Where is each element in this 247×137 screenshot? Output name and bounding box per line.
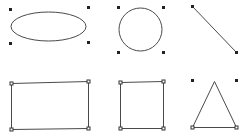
line-handle-end[interactable] [235, 51, 238, 54]
triangle-shape[interactable] [191, 79, 238, 129]
line-shape[interactable] [191, 5, 238, 54]
circle-handle-bottom-right[interactable] [162, 51, 165, 54]
square-handle-bottom-left[interactable] [119, 127, 122, 130]
rectangle-shape[interactable] [10, 80, 90, 131]
line-handle-start[interactable] [191, 5, 194, 8]
rectangle-handle-top-right[interactable] [87, 80, 90, 83]
circle-shape[interactable] [117, 6, 165, 54]
triangle-handle-bottom-left[interactable] [191, 126, 194, 129]
triangle-handle-top-right[interactable] [235, 79, 238, 82]
ellipse-outline[interactable] [11, 12, 86, 41]
circle-outline[interactable] [119, 8, 162, 51]
square-outline[interactable] [121, 82, 164, 129]
circle-handle-bottom-left[interactable] [117, 51, 120, 54]
drawing-canvas[interactable] [0, 0, 247, 137]
square-handle-top-left[interactable] [119, 81, 122, 84]
ellipse-handle-top-right[interactable] [87, 6, 90, 9]
line-segment[interactable] [193, 7, 237, 53]
triangle-handle-top-left[interactable] [191, 79, 194, 82]
circle-handle-top-right[interactable] [162, 6, 165, 9]
square-handle-top-right[interactable] [162, 80, 165, 83]
rectangle-outline[interactable] [12, 82, 89, 130]
ellipse-handle-bottom-left[interactable] [9, 42, 12, 45]
triangle-outline[interactable] [193, 82, 237, 128]
rectangle-handle-bottom-left[interactable] [10, 128, 13, 131]
rectangle-handle-bottom-right[interactable] [87, 127, 90, 130]
square-shape[interactable] [119, 80, 165, 130]
rectangle-handle-top-left[interactable] [10, 82, 13, 85]
square-handle-bottom-right[interactable] [162, 127, 165, 130]
ellipse-shape[interactable] [9, 6, 90, 45]
ellipse-handle-bottom-right[interactable] [87, 41, 90, 44]
ellipse-handle-top-left[interactable] [9, 8, 12, 11]
circle-handle-top-left[interactable] [117, 6, 120, 9]
triangle-handle-bottom-right[interactable] [235, 126, 238, 129]
